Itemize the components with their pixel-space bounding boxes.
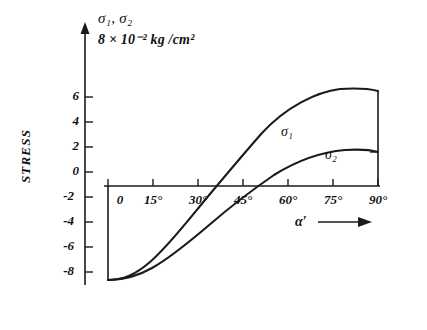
sigma2-curve-label: σ₂ xyxy=(325,147,337,163)
y-tick-0: 0 xyxy=(57,163,79,179)
sigma2-curve xyxy=(108,150,378,280)
x-tick-90: 90° xyxy=(361,192,395,208)
y-tick-6: 6 xyxy=(57,88,79,104)
y-tick-4: 4 xyxy=(57,113,79,129)
x-axis-ticks xyxy=(108,179,378,186)
x-tick-15: 15° xyxy=(136,192,170,208)
x-tick-45: 45° xyxy=(226,192,260,208)
stress-vs-angle-figure: σ₁, σ₂ 8 × 10⁻² kg /cm² STRESS xyxy=(0,0,427,330)
y-axis-arrowhead xyxy=(81,22,90,34)
y-tick-2: 2 xyxy=(57,138,79,154)
y-axis-ticks xyxy=(85,97,93,272)
y-tick-neg4: -4 xyxy=(52,213,74,229)
x-tick-30: 30° xyxy=(181,192,215,208)
y-tick-neg2: -2 xyxy=(52,188,74,204)
x-axis-title: α′ xyxy=(295,214,307,230)
x-tick-75: 75° xyxy=(316,192,350,208)
x-tick-60: 60° xyxy=(271,192,305,208)
sigma1-curve-label: σ₁ xyxy=(281,124,293,140)
y-tick-neg6: -6 xyxy=(52,238,74,254)
x-tick-0: 0 xyxy=(103,192,137,208)
y-tick-neg8: -8 xyxy=(52,263,74,279)
x-axis-direction-arrow xyxy=(318,217,372,227)
